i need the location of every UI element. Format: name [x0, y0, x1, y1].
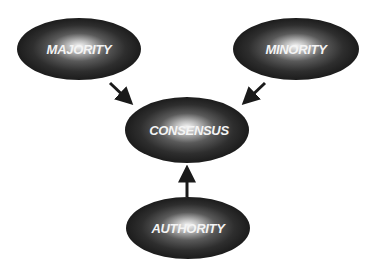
node-authority: AUTHORITY: [126, 197, 250, 259]
node-consensus-label: CONSENSUS: [149, 123, 229, 138]
influence-diagram: MAJORITY MINORITY CONSENSUS AUTHORITY: [0, 0, 375, 269]
node-minority: MINORITY: [233, 18, 359, 80]
node-majority-label: MAJORITY: [47, 42, 113, 57]
node-minority-label: MINORITY: [265, 42, 328, 57]
node-authority-label: AUTHORITY: [150, 221, 226, 236]
node-majority: MAJORITY: [17, 18, 141, 80]
node-consensus: CONSENSUS: [125, 97, 249, 163]
arrow-majority-to-consensus: [110, 83, 130, 102]
arrow-minority-to-consensus: [245, 83, 265, 102]
